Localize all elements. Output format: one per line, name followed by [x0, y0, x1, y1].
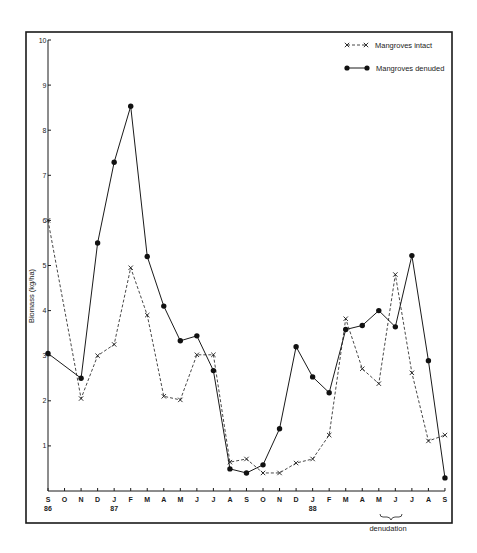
- y-tick-label: 5: [43, 262, 47, 269]
- data-point: [393, 324, 398, 329]
- series-layer: [45, 104, 447, 481]
- x-tick-label: A: [161, 496, 166, 503]
- year-label: 86: [44, 505, 52, 512]
- data-point: [376, 308, 381, 313]
- data-point: [95, 240, 100, 245]
- data-point: [78, 376, 83, 381]
- chart-frame: [26, 32, 452, 523]
- x-tick-label: A: [227, 496, 232, 503]
- x-tick-label: J: [410, 496, 414, 503]
- data-point: [111, 160, 116, 165]
- data-point: [261, 471, 265, 475]
- axes: 12345678910SONDJFMAMJJASONDJFMAMJJAS8687…: [39, 37, 448, 513]
- legend-label-intact: Mangroves intact: [375, 41, 433, 50]
- dot-marker-icon: [344, 65, 349, 70]
- x-tick-label: A: [360, 496, 365, 503]
- x-tick-label: S: [244, 496, 249, 503]
- data-point: [161, 303, 166, 308]
- data-point: [95, 354, 99, 358]
- year-label: 88: [309, 505, 317, 512]
- x-tick-label: M: [343, 496, 349, 503]
- dot-marker-icon: [364, 65, 369, 70]
- data-point: [45, 351, 50, 356]
- data-point: [426, 358, 431, 363]
- x-tick-label: N: [79, 496, 84, 503]
- data-point: [409, 253, 414, 258]
- x-tick-label: J: [112, 496, 116, 503]
- x-tick-label: J: [211, 496, 215, 503]
- x-tick-label: M: [177, 496, 183, 503]
- data-point: [343, 327, 348, 332]
- x-tick-label: J: [195, 496, 199, 503]
- y-tick-label: 10: [39, 37, 47, 44]
- x-tick-label: A: [426, 496, 431, 503]
- brace-icon: [380, 514, 402, 520]
- y-axis-label: Biomass (kg/ha): [27, 268, 36, 323]
- y-tick-label: 6: [43, 217, 47, 224]
- y-tick-label: 1: [43, 442, 47, 449]
- x-tick-label: J: [393, 496, 397, 503]
- x-tick-label: D: [294, 496, 299, 503]
- data-point: [293, 344, 298, 349]
- x-tick-label: S: [46, 496, 51, 503]
- legend-item-denuded: Mangroves denuded: [344, 64, 444, 73]
- data-point: [360, 323, 365, 328]
- data-point: [128, 104, 133, 109]
- x-tick-label: M: [376, 496, 382, 503]
- data-point: [112, 342, 116, 346]
- denudation-label: denudation: [369, 524, 406, 533]
- data-point: [178, 338, 183, 343]
- data-point: [277, 426, 282, 431]
- x-tick-label: S: [443, 496, 448, 503]
- x-tick-label: O: [260, 496, 266, 503]
- x-tick-label: D: [95, 496, 100, 503]
- data-point: [360, 367, 364, 371]
- data-point: [227, 466, 232, 471]
- data-point: [443, 433, 447, 437]
- data-point: [211, 368, 216, 373]
- data-point: [244, 470, 249, 475]
- legend-item-intact: Mangroves intact: [345, 41, 433, 50]
- x-tick-label: O: [62, 496, 68, 503]
- data-point: [310, 457, 314, 461]
- legend-label-denuded: Mangroves denuded: [376, 64, 444, 73]
- y-tick-label: 8: [43, 127, 47, 134]
- x-tick-label: N: [277, 496, 282, 503]
- chart-figure: 12345678910SONDJFMAMJJASONDJFMAMJJAS8687…: [0, 0, 477, 553]
- data-point: [260, 462, 265, 467]
- data-point: [310, 374, 315, 379]
- data-point: [79, 396, 83, 400]
- data-point: [129, 266, 133, 270]
- y-tick-label: 7: [43, 172, 47, 179]
- x-tick-label: F: [327, 496, 332, 503]
- y-tick-label: 4: [43, 307, 47, 314]
- data-point: [294, 461, 298, 465]
- x-tick-label: F: [129, 496, 134, 503]
- series-denuded: [45, 104, 447, 481]
- x-tick-label: M: [144, 496, 150, 503]
- data-point: [145, 254, 150, 259]
- year-label: 87: [110, 505, 118, 512]
- data-point: [194, 333, 199, 338]
- data-point: [178, 398, 182, 402]
- denudation-annotation: denudation: [369, 514, 406, 533]
- legend: Mangroves intact Mangroves denuded: [344, 41, 444, 73]
- data-point: [442, 475, 447, 480]
- data-point: [244, 457, 248, 461]
- series-intact: [46, 218, 447, 475]
- x-tick-label: J: [311, 496, 315, 503]
- data-point: [377, 381, 381, 385]
- y-tick-label: 2: [43, 397, 47, 404]
- data-point: [326, 390, 331, 395]
- y-tick-label: 9: [43, 82, 47, 89]
